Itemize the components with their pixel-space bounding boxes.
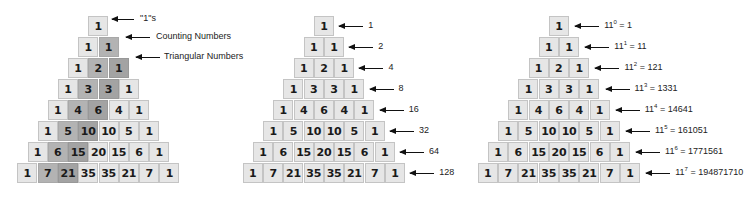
arrow-left-icon [585,47,609,48]
arrow-left-icon [636,152,660,153]
triangle-cell: 1 [569,58,589,78]
triangle-cell: 10 [559,121,579,141]
equals-sign: = [647,83,657,93]
triangle-cell: 7 [498,163,518,183]
power-value: 1331 [658,83,678,93]
arrow-left-icon [616,110,640,111]
triangle-cell: 1 [518,79,538,99]
power-value: 11 [637,41,646,51]
annotation-label: 115 = 161051 [655,125,708,136]
triangle-cell: 3 [559,79,579,99]
annotation-label: 112 = 121 [624,62,662,73]
equals-sign: = [688,167,698,177]
power-base: 11 [624,62,633,72]
annotation-label: 110 = 1 [604,20,632,31]
triangle-cell: 1 [549,16,569,36]
pascal-triangle-powers-of-eleven: 1111211331146411510105116152015611721353… [0,0,756,198]
annotation-label: 113 = 1331 [635,83,678,94]
triangle-cell: 1 [478,163,498,183]
triangle-cell: 1 [508,100,528,120]
triangle-cell: 1 [529,58,549,78]
equals-sign: = [678,146,688,156]
triangle-cell: 1 [600,121,620,141]
arrow-left-icon [626,131,650,132]
equals-sign: = [668,125,678,135]
annotation-label: 117 = 194871710 [675,167,743,178]
triangle-cell: 1 [498,121,518,141]
triangle-cell: 1 [610,142,630,162]
triangle-cell: 21 [579,163,599,183]
power-value: 161051 [678,125,708,135]
triangle-cell: 1 [579,79,599,99]
annotation-label: 111 = 11 [614,41,646,52]
triangle-cell: 1 [620,163,640,183]
power-value: 1771561 [688,146,723,156]
triangle-cell: 6 [508,142,528,162]
arrow-left-icon [595,68,619,69]
triangle-cell: 15 [529,142,549,162]
triangle-cell: 7 [600,163,620,183]
power-base: 11 [655,125,664,135]
triangle-cell: 20 [549,142,569,162]
power-base: 11 [645,104,654,114]
power-value: 1 [627,20,632,30]
triangle-cell: 4 [529,100,549,120]
triangle-cell: 35 [539,163,559,183]
annotation-label: 116 = 1771561 [665,146,723,157]
triangle-cell: 1 [559,37,579,57]
equals-sign: = [637,62,647,72]
arrow-left-icon [575,26,599,27]
triangle-cell: 35 [559,163,579,183]
triangle-cell: 10 [539,121,559,141]
power-base: 11 [665,146,674,156]
triangle-cell: 21 [518,163,538,183]
triangle-cell: 1 [539,37,559,57]
power-value: 194871710 [698,167,743,177]
annotation-label: 114 = 14641 [645,104,693,115]
equals-sign: = [627,41,637,51]
power-base: 11 [635,83,644,93]
triangle-cell: 1 [488,142,508,162]
triangle-cell: 5 [579,121,599,141]
power-value: 14641 [668,104,693,114]
power-base: 11 [614,41,623,51]
power-base: 11 [675,167,684,177]
triangle-cell: 1 [590,100,610,120]
power-value: 121 [647,62,662,72]
triangle-cell: 15 [569,142,589,162]
arrow-left-icon [646,173,670,174]
triangle-cell: 3 [539,79,559,99]
triangle-cell: 5 [518,121,538,141]
triangle-cell: 6 [549,100,569,120]
triangle-cell: 2 [549,58,569,78]
triangle-cell: 4 [569,100,589,120]
equals-sign: = [617,20,627,30]
triangle-cell: 6 [590,142,610,162]
arrow-left-icon [606,89,630,90]
equals-sign: = [657,104,667,114]
